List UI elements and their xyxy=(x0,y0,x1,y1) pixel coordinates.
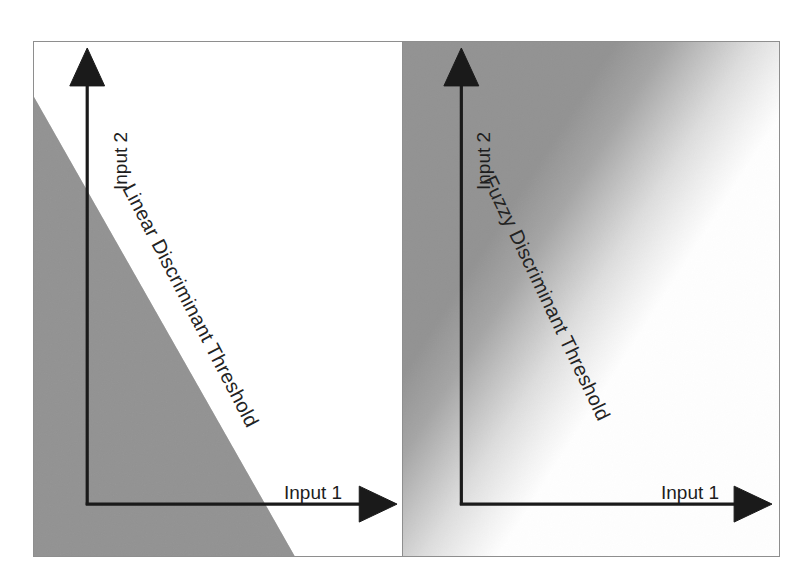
fuzzy-panel-graphics xyxy=(403,42,779,556)
shaded-class-region-fuzzy xyxy=(403,42,779,556)
shaded-class-region-linear xyxy=(34,97,295,556)
figure-root: Input 2 Input 1 Linear Discriminant Thre… xyxy=(0,0,810,582)
x-axis-arrowhead-linear xyxy=(359,486,397,522)
panel-fuzzy-discriminant: Input 2 Input 1 Fuzzy Discriminant Thres… xyxy=(403,42,779,556)
figure-frame: Input 2 Input 1 Linear Discriminant Thre… xyxy=(33,41,780,557)
y-axis-arrowhead-linear xyxy=(70,48,105,86)
panel-linear-discriminant: Input 2 Input 1 Linear Discriminant Thre… xyxy=(34,42,403,556)
linear-panel-graphics xyxy=(34,42,402,556)
